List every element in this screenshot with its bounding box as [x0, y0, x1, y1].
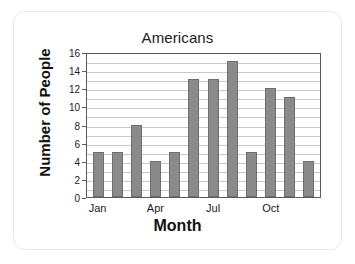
x-axis-ticks: JanAprJulOct [86, 202, 321, 218]
bar [227, 61, 238, 197]
x-tick-label: Jul [206, 202, 220, 214]
y-tick-label: 2 [74, 174, 80, 185]
y-tick-label: 6 [74, 138, 80, 149]
y-tick-mark [82, 198, 86, 199]
bar [131, 125, 142, 198]
bar [112, 152, 123, 197]
chart-title: Americans [14, 29, 341, 46]
bar [188, 79, 199, 197]
bar [169, 152, 180, 197]
x-tick-label: Apr [147, 202, 164, 214]
bar [93, 152, 104, 197]
x-tick-label: Jan [89, 202, 107, 214]
y-tick-label: 16 [69, 48, 80, 59]
y-axis-ticks: 0246810121416 [54, 53, 86, 198]
y-tick-label: 0 [74, 193, 80, 204]
bar-series [87, 54, 320, 197]
plot-area [86, 53, 321, 198]
bar [208, 79, 219, 197]
y-tick-label: 14 [69, 66, 80, 77]
x-axis-label: Month [14, 217, 341, 235]
y-tick-label: 8 [74, 120, 80, 131]
y-tick-label: 10 [69, 102, 80, 113]
x-tick-label: Oct [262, 202, 279, 214]
bar [265, 88, 276, 197]
y-tick-label: 4 [74, 156, 80, 167]
y-axis-label: Number of People [36, 38, 53, 188]
bar [284, 97, 295, 197]
y-tick-label: 12 [69, 84, 80, 95]
chart-card: Americans Number of People 0246810121416… [13, 11, 342, 250]
bar [150, 161, 161, 197]
bar [246, 152, 257, 197]
bar [303, 161, 314, 197]
